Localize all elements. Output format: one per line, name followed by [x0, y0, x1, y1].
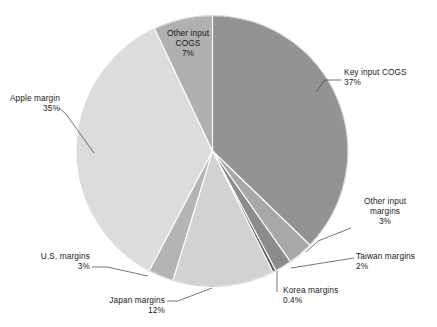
label-japan-margins-name: Japan margins [103, 295, 165, 305]
label-taiwan-margins-value: 2% [356, 261, 417, 271]
label-apple-margin-value: 35% [0, 103, 60, 113]
label-other-input-margins-name2: margins [353, 206, 417, 216]
label-us-margins-value: 3% [30, 261, 90, 271]
label-other-input-cogs-name: Other input [160, 28, 216, 38]
label-other-input-margins: Other input margins 3% [353, 196, 417, 227]
label-other-input-margins-value: 3% [353, 216, 417, 226]
leader-line-us-margins [92, 267, 148, 276]
label-japan-margins: Japan margins 12% [103, 295, 165, 315]
label-key-input-cogs: Key input COGS 37% [344, 67, 407, 87]
leader-line-japan-margins [167, 288, 212, 301]
label-korea-margins-value: 0.4% [283, 295, 343, 305]
label-other-input-cogs: Other input COGS 7% [160, 28, 216, 59]
leader-line-taiwan-margins [291, 258, 354, 268]
label-other-input-margins-name: Other input [353, 196, 417, 206]
label-key-input-cogs-name: Key input COGS [344, 67, 407, 77]
label-apple-margin: Apple margin 35% [0, 93, 60, 113]
label-us-margins-name: U.S. margins [30, 251, 90, 261]
label-taiwan-margins: Taiwan margins 2% [356, 251, 417, 271]
label-us-margins: U.S. margins 3% [30, 251, 90, 271]
label-other-input-cogs-value: 7% [160, 48, 216, 58]
pie-chart-page: Key input COGS 37% Apple margin 35% Othe… [0, 0, 437, 327]
label-japan-margins-value: 12% [103, 305, 165, 315]
pie-chart [0, 0, 437, 327]
label-korea-margins: Korea margins 0.4% [283, 285, 343, 305]
label-apple-margin-name: Apple margin [0, 93, 60, 103]
label-other-input-cogs-name2: COGS [160, 38, 216, 48]
label-korea-margins-name: Korea margins [283, 285, 343, 295]
label-taiwan-margins-name: Taiwan margins [356, 251, 417, 261]
label-key-input-cogs-value: 37% [344, 77, 407, 87]
